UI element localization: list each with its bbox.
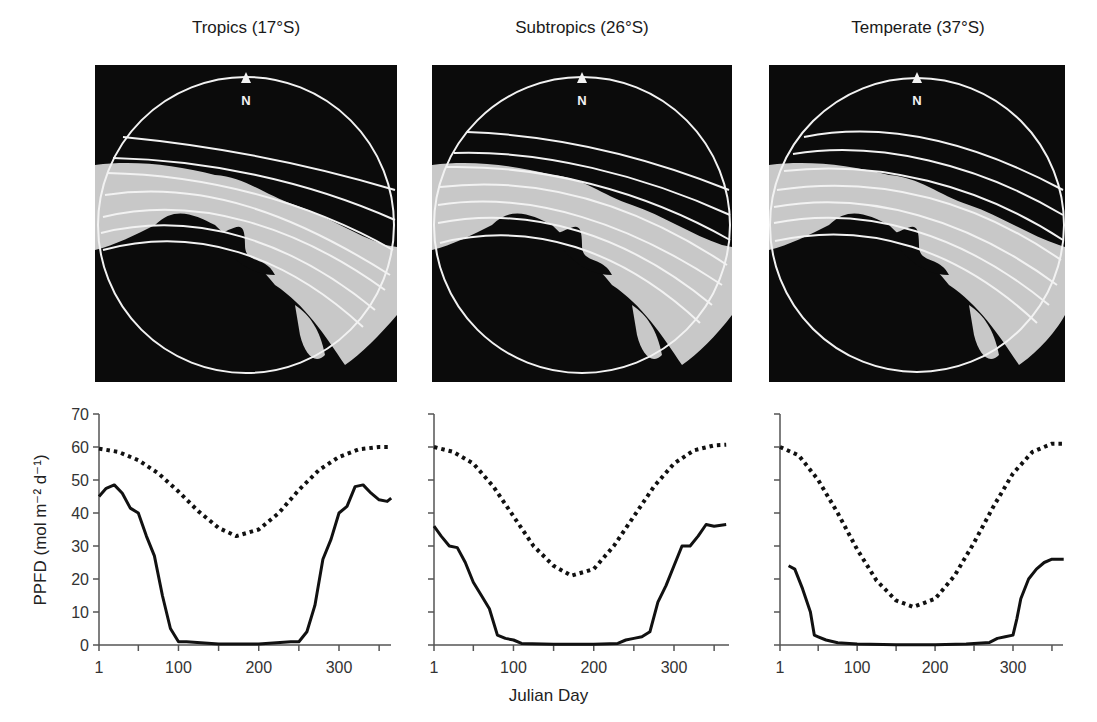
x-tick-label: 300	[326, 659, 353, 676]
x-tick-label: 200	[922, 659, 949, 676]
x-tick-label: 100	[500, 659, 527, 676]
understorey-ppfd-line	[99, 485, 391, 644]
x-tick-label: 300	[1000, 659, 1027, 676]
x-tick-label: 1	[95, 659, 104, 676]
y-tick-label: 70	[71, 406, 89, 423]
x-tick-label: 100	[844, 659, 871, 676]
ppfd-charts: PPFD (mol m⁻² d⁻¹) 010203040506070110020…	[0, 0, 1097, 722]
y-tick-label: 30	[71, 538, 89, 555]
x-tick-label: 1	[776, 659, 785, 676]
y-tick-label: 60	[71, 439, 89, 456]
x-tick-label: 200	[245, 659, 272, 676]
x-axis-label: Julian Day	[0, 686, 1097, 706]
x-tick-label: 1	[430, 659, 439, 676]
understorey-ppfd-line	[434, 525, 726, 645]
chart-2: 1100200300	[428, 414, 729, 676]
x-tick-label: 100	[165, 659, 192, 676]
chart-1: 0102030405060701100200300	[71, 406, 391, 676]
y-tick-label: 40	[71, 505, 89, 522]
y-tick-label: 10	[71, 604, 89, 621]
x-tick-label: 300	[661, 659, 688, 676]
y-tick-label: 0	[80, 637, 89, 654]
potential-ppfd-line	[434, 445, 726, 576]
y-tick-label: 50	[71, 472, 89, 489]
y-tick-label: 20	[71, 571, 89, 588]
chart-3: 1100200300	[774, 414, 1064, 676]
potential-ppfd-line	[780, 444, 1064, 607]
x-tick-label: 200	[580, 659, 607, 676]
y-axis-label: PPFD (mol m⁻² d⁻¹)	[31, 454, 50, 605]
